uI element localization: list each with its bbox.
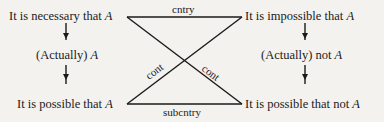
node-necessary: It is necessary that A [9, 9, 112, 23]
node-actually: (Actually) A [36, 48, 98, 62]
node-impossible: It is impossible that A [245, 9, 354, 23]
node-actually-not: (Actually) not A [261, 48, 342, 62]
edge-label-subcontrary: subcntry [163, 106, 201, 118]
node-possible-not: It is possible that not A [245, 97, 360, 111]
edge-label-contrary: cntry [172, 3, 195, 15]
node-possible: It is possible that A [17, 97, 113, 111]
